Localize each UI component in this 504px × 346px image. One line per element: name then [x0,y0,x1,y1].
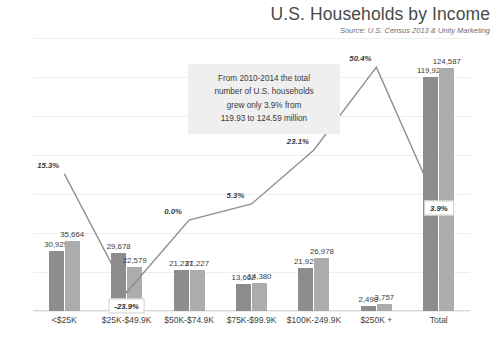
percent-change-label: 23.1% [287,137,309,146]
percent-change-label: 15.3% [37,161,59,170]
chart-title: U.S. Households by Income [271,4,490,25]
annotation-line-4: 119.93 to 124.59 million [194,112,334,125]
annotation-box: From 2010-2014 the total number of U.S. … [188,64,340,134]
x-axis-label: $75K-$99.9K [227,315,277,325]
x-axis-label: $25K-$49.9K [102,315,152,325]
annotation-line-2: number of U.S. households [194,85,334,98]
x-axis-label: $100K-249.9K [287,315,341,325]
x-axis-label: $250K + [360,315,392,325]
annotation-line-1: From 2010-2014 the total [194,72,334,85]
x-axis-labels: <$25K$25K-$49.9K$50K-$74.9K$75K-$99.9K$1… [33,315,470,335]
x-axis-label: Total [430,315,448,325]
chart-source: Source: U.S. Census 2013 & Unity Marketi… [340,26,490,35]
percent-change-label: 0.0% [164,207,182,216]
x-axis-label: $50K-$74.9K [164,315,214,325]
annotation-line-3: grew only 3.9% from [194,99,334,112]
x-axis-label: <$25K [52,315,77,325]
percent-change-label: -23.9% [108,299,145,314]
chart-container: U.S. Households by Income Source: U.S. C… [0,0,504,346]
percent-change-label: 50.4% [349,54,371,63]
percent-change-label: 5.3% [227,191,245,200]
gridline [33,311,470,312]
percent-change-label: 3.9% [424,201,454,216]
